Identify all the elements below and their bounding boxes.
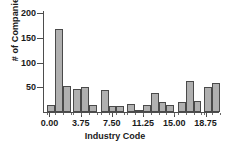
x-tick-minor	[97, 113, 98, 115]
x-tick-minor	[47, 113, 48, 115]
bar	[212, 83, 220, 112]
y-tick-label-150: 150	[0, 34, 36, 43]
bar	[116, 106, 124, 112]
bar	[186, 81, 194, 112]
x-tick-minor	[73, 113, 74, 115]
bar	[204, 87, 212, 112]
bar	[178, 102, 186, 112]
bar	[135, 110, 143, 112]
x-tick-minor	[212, 113, 213, 115]
x-tick-minor	[201, 113, 202, 115]
y-tick-200	[37, 13, 43, 14]
bar	[194, 101, 202, 112]
bar	[143, 105, 151, 112]
y-tick-label-50: 50	[0, 83, 36, 92]
bar-series	[44, 11, 216, 112]
x-tick-minor	[89, 113, 90, 115]
bar	[73, 89, 81, 112]
x-tick-minor	[186, 113, 187, 115]
x-tick-minor	[135, 113, 136, 115]
x-tick-minor	[159, 113, 160, 115]
x-tick-minor	[55, 113, 56, 115]
x-tick-minor	[127, 113, 128, 115]
bar	[166, 105, 174, 112]
x-tick-minor	[124, 113, 125, 115]
x-tick-18.75	[206, 113, 207, 117]
y-tick-label-100: 100	[0, 59, 36, 68]
x-tick-0.00	[49, 113, 50, 117]
y-tick-label-200: 200	[0, 9, 36, 18]
x-tick-minor	[178, 113, 179, 115]
x-tick-minor	[166, 113, 167, 115]
bar	[159, 102, 167, 112]
x-tick-7.50	[112, 113, 113, 117]
bar	[151, 93, 159, 112]
histogram-figure: # of Companies 50100150200 0.003.757.501…	[0, 0, 230, 149]
bar	[55, 29, 63, 112]
x-axis-label: Industry Code	[0, 131, 230, 141]
bar	[63, 86, 71, 112]
x-tick-minor	[174, 113, 175, 115]
y-tick-50	[37, 87, 43, 88]
bar	[47, 105, 55, 112]
x-tick-minor	[63, 113, 64, 115]
x-tick-minor	[101, 113, 102, 115]
y-tick-100	[37, 63, 43, 64]
y-tick-150	[37, 38, 43, 39]
x-tick-minor	[81, 113, 82, 115]
x-tick-minor	[220, 113, 221, 115]
x-tick-minor	[71, 113, 72, 115]
x-tick-minor	[116, 113, 117, 115]
x-tick-label-18.75: 18.75	[186, 118, 226, 128]
bar	[109, 106, 117, 112]
x-tick-minor	[204, 113, 205, 115]
x-tick-minor	[151, 113, 152, 115]
x-tick-minor	[143, 113, 144, 115]
x-tick-minor	[194, 113, 195, 115]
bar	[127, 104, 135, 112]
bar	[101, 90, 109, 112]
bar	[81, 87, 89, 112]
x-tick-minor	[109, 113, 110, 115]
bar	[89, 105, 97, 112]
